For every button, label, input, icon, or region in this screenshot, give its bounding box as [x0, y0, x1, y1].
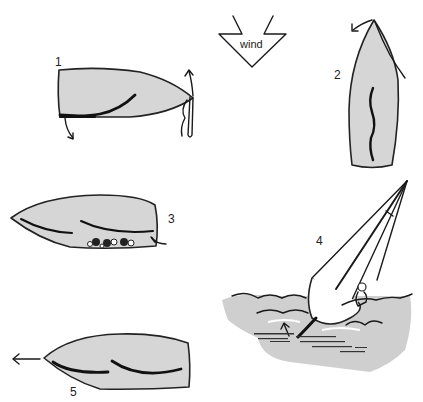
step-2-boat: 2 — [334, 20, 405, 168]
step-4-number: 4 — [316, 234, 323, 248]
wind-arrow-icon: wind — [219, 16, 286, 67]
wind-label: wind — [239, 38, 263, 50]
step-2-number: 2 — [334, 68, 341, 82]
step-5-number: 5 — [70, 385, 77, 399]
step-4-capsize: 4 — [222, 181, 412, 372]
step-1-boat: 1 — [55, 55, 193, 139]
step-1-number: 1 — [55, 55, 62, 69]
sailing-diagram: wind 1 2 3 — [0, 0, 423, 402]
step-5-boat: 5 — [13, 334, 190, 399]
step-3-number: 3 — [168, 212, 175, 226]
step-3-boat: 3 — [11, 195, 175, 248]
